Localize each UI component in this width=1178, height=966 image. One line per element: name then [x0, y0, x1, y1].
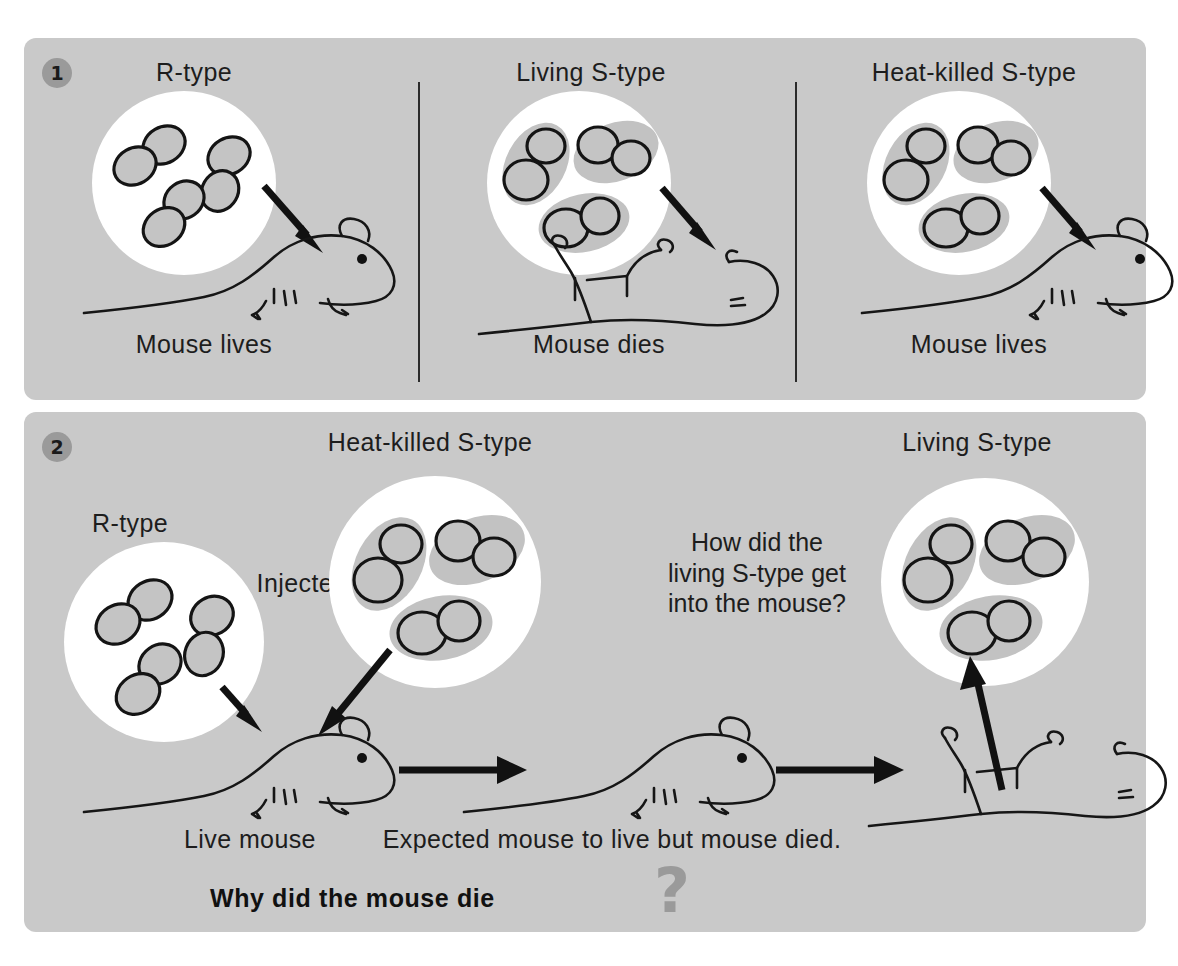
column-heading-living-s-type: Living S-type	[516, 58, 666, 87]
why-did-the-mouse-die-text: Why did the mouse die	[210, 884, 495, 913]
column-heading-r-type: R-type	[156, 58, 232, 87]
mouse-alive-1	[84, 213, 424, 333]
mouse-eye	[357, 753, 367, 763]
mouse-eye	[737, 753, 747, 763]
panel-2: 2 R-type Heat-killed S-type Injected Liv…	[24, 412, 1146, 932]
mouse-alive-panel2-2	[464, 712, 804, 832]
question-mark-icon: ?	[654, 860, 690, 922]
panel-1-badge: 1	[42, 58, 72, 88]
label-heat-killed-s-type: Heat-killed S-type	[328, 428, 533, 457]
panel-2-badge: 2	[42, 432, 72, 462]
mouse-eye	[357, 254, 367, 264]
label-r-type: R-type	[92, 509, 168, 538]
panel-1: 1 R-type Living S-type Heat-killed S-typ…	[24, 38, 1146, 400]
label-living-s-type: Living S-type	[902, 428, 1052, 457]
mouse-alive-panel2-1	[84, 712, 424, 832]
mouse-dead-1	[479, 230, 819, 350]
inline-question-text: How did the living S-type get into the m…	[607, 527, 907, 619]
arrow-mouse-to-living-s-type	[954, 642, 1074, 802]
mouse-eye	[1135, 254, 1145, 264]
mouse-alive-2	[862, 213, 1178, 333]
column-heading-heat-killed-s-type: Heat-killed S-type	[872, 58, 1077, 87]
